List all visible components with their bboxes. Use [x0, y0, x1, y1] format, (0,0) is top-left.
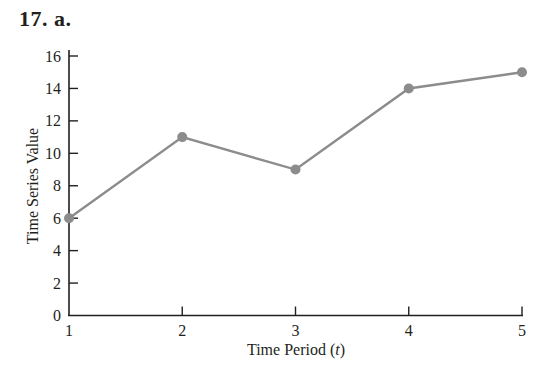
x-tick-label: 5	[518, 322, 526, 339]
x-tick-label: 1	[65, 322, 73, 339]
y-tick-label: 2	[53, 275, 61, 292]
y-tick-label: 12	[45, 112, 61, 129]
y-tick-label: 0	[53, 307, 61, 324]
series-line	[69, 72, 522, 218]
x-axis-title: Time Period (t)	[247, 341, 345, 359]
y-tick-label: 6	[53, 210, 61, 227]
data-point-marker	[291, 165, 301, 175]
y-axis-ticks: 0246810121416	[45, 48, 78, 325]
line-chart: 0246810121416 12345 Time Series Value Ti…	[0, 0, 542, 367]
x-axis-ticks: 12345	[65, 307, 526, 339]
y-tick-label: 14	[45, 80, 61, 97]
y-axis-title: Time Series Value	[24, 128, 41, 244]
data-point-marker	[177, 132, 187, 142]
x-tick-label: 3	[292, 322, 300, 339]
data-point-marker	[404, 83, 414, 93]
y-tick-label: 10	[45, 145, 61, 162]
data-point-marker	[64, 213, 74, 223]
y-tick-label: 4	[53, 242, 61, 259]
y-tick-label: 16	[45, 48, 61, 65]
x-tick-label: 2	[178, 322, 186, 339]
y-tick-label: 8	[53, 177, 61, 194]
data-point-markers	[64, 67, 527, 223]
data-point-marker	[517, 67, 527, 77]
x-tick-label: 4	[405, 322, 413, 339]
